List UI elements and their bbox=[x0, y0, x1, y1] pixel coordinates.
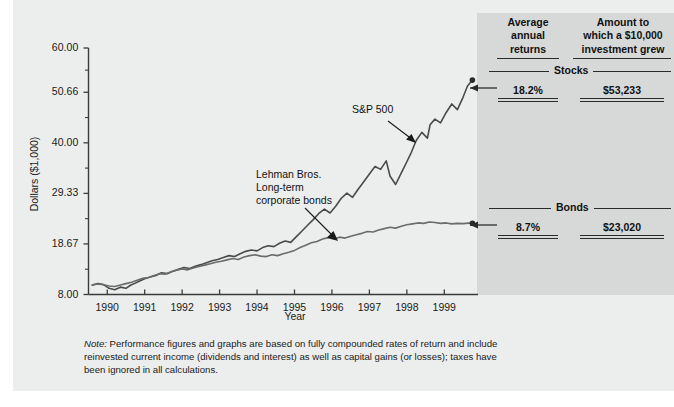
y-axis-ticks bbox=[84, 48, 89, 295]
bonds-amount-underline-2 bbox=[580, 238, 664, 239]
stocks-amount-grew: $53,233 bbox=[580, 84, 664, 96]
results-header-average-returns: Average annual returns bbox=[489, 16, 567, 56]
results-header-returns-line-3: returns bbox=[489, 43, 567, 56]
y-axis-tick-label: 50.66 bbox=[27, 85, 79, 97]
x-axis-ticks bbox=[107, 290, 444, 295]
results-header-amount-grew: Amount to which a $10,000 investment gre… bbox=[575, 16, 671, 56]
stocks-section-title: Stocks bbox=[549, 64, 593, 76]
results-header-returns-line-1: Average bbox=[489, 16, 567, 29]
bonds-amount-underline-1 bbox=[580, 235, 664, 236]
y-axis-tick-label: 60.00 bbox=[27, 41, 79, 53]
chart-callout-pointers bbox=[470, 85, 497, 229]
annotation-lehman-bonds: Lehman Bros. Long-term corporate bonds bbox=[256, 168, 332, 208]
series-endpoint-stocks bbox=[470, 77, 476, 83]
bonds-amount-grew: $23,020 bbox=[580, 221, 664, 233]
bonds-return-underline-2 bbox=[498, 238, 558, 239]
stocks-return-underline-2 bbox=[498, 101, 558, 102]
bonds-average-annual-return: 8.7% bbox=[498, 221, 558, 233]
results-header-grew-line-1: Amount to bbox=[575, 16, 671, 29]
annotation-lehman-line-2: Long-term bbox=[256, 181, 332, 194]
results-header-grew-underline bbox=[573, 58, 671, 59]
annotation-lehman-line-1: Lehman Bros. bbox=[256, 168, 332, 181]
results-header-grew-line-3: investment grew bbox=[575, 43, 671, 56]
annotation-lehman-line-3: corporate bonds bbox=[256, 194, 332, 207]
stocks-return-underline-1 bbox=[498, 98, 558, 99]
x-axis-title: Year bbox=[240, 310, 350, 322]
bonds-section-title: Bonds bbox=[551, 201, 594, 213]
page-root: 60.0050.6640.0029.3318.678.00 1990199119… bbox=[0, 0, 674, 407]
chart-footnote: Note: Performance figures and graphs are… bbox=[84, 337, 514, 376]
stocks-amount-underline-2 bbox=[580, 101, 664, 102]
stocks-callout-arrow bbox=[470, 85, 478, 92]
y-axis-title: Dollars ($1,000) bbox=[28, 114, 40, 234]
x-axis-tick-label: 1999 bbox=[422, 301, 466, 313]
annotation-sp500: S&P 500 bbox=[352, 103, 393, 116]
results-header-grew-line-2: which a $10,000 bbox=[575, 29, 671, 42]
footnote-label: Note: bbox=[84, 338, 107, 349]
y-axis-tick-label: 18.67 bbox=[27, 237, 79, 249]
footnote-text: Performance figures and graphs are based… bbox=[84, 338, 497, 375]
stocks-average-annual-return: 18.2% bbox=[498, 84, 558, 96]
results-header-returns-underline bbox=[497, 58, 559, 59]
y-axis-tick-label: 8.00 bbox=[27, 288, 79, 300]
stocks-amount-underline-1 bbox=[580, 98, 664, 99]
bonds-return-underline-1 bbox=[498, 235, 558, 236]
series-line-bonds bbox=[92, 222, 472, 286]
results-header-returns-line-2: annual bbox=[489, 29, 567, 42]
